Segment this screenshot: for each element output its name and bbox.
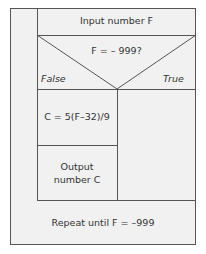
branch-divider: [117, 89, 118, 200]
loop-body-bottom-border: [37, 200, 196, 201]
output-step-line1: Output: [37, 161, 117, 173]
loop-condition: Repeat until F = –999: [10, 217, 196, 229]
true-label: True: [163, 73, 184, 85]
decision-triangle-lines: [0, 0, 206, 254]
process-output-divider: [37, 145, 117, 146]
input-bottom-border: [37, 35, 196, 36]
false-label: False: [41, 73, 66, 85]
process-step: C = 5(F–32)/9: [37, 111, 117, 123]
decision-condition: F = – 999?: [37, 45, 196, 57]
input-step: Input number F: [37, 15, 196, 27]
output-step-line2: number C: [37, 174, 117, 186]
